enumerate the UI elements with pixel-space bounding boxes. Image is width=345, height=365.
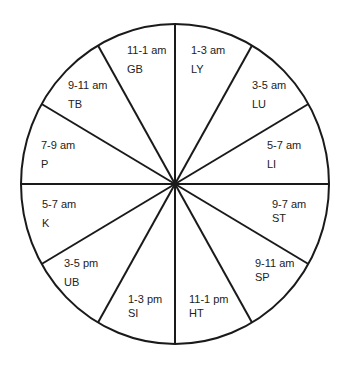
segment-label-k: 5-7 amK <box>42 198 76 230</box>
segment-label-ly: 1-3 amLY <box>191 44 225 76</box>
segment-label-ub: 3-5 pmUB <box>64 257 98 289</box>
segment-label-gb: 11-1 amGB <box>127 44 167 76</box>
segment-label-st: 9-7 amST <box>272 198 306 225</box>
segment-label-li: 5-7 amLI <box>267 139 301 171</box>
organ-clock-wheel <box>0 0 345 365</box>
segment-label-tb: 9-11 amTB <box>68 79 108 111</box>
sector-dividers <box>21 24 329 344</box>
segment-label-p: 7-9 amP <box>41 139 75 171</box>
segment-label-sp: 9-11 amSP <box>255 257 295 284</box>
segment-label-ht: 11-1 pmHT <box>189 293 229 320</box>
segment-label-lu: 3-5 amLU <box>252 79 286 111</box>
segment-label-si: 1-3 pmSI <box>128 293 162 320</box>
